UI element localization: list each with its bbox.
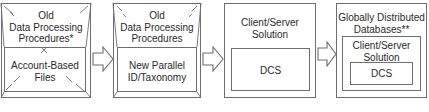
stage-2-new-parallel-taxonomy-box: New Parallel ID/Taxonomy (117, 47, 197, 92)
stage-2-inner-line-1: New Parallel (118, 60, 196, 72)
stage-1-title-line-1: Old (2, 10, 90, 22)
stage-3-title-line-2: Solution (225, 29, 315, 41)
stage-2-title: Old Data Processing Procedures (114, 10, 200, 45)
stage-1-inner-label: Account-Based Files (5, 60, 85, 83)
stage-2-title-line-1: Old (114, 10, 200, 22)
stage-4-inner-line-1: DCS (351, 68, 412, 80)
stage-4-dcs-box: DCS (350, 62, 413, 85)
stage-3-title: Client/Server Solution (225, 17, 315, 40)
stage-3-inner-label: DCS (232, 65, 309, 77)
stage-2-inner-line-2: ID/Taxonomy (118, 72, 196, 84)
stage-4-title: Globally Distributed Databases** (337, 12, 426, 35)
stage-1-title: Old Data Processing Procedures* (2, 10, 90, 45)
stage-2-title-line-2: Data Processing (114, 22, 200, 34)
stage-4-middle-label: Client/Server Solution (343, 40, 420, 63)
stage-1-inner-line-2: Files (5, 72, 85, 84)
stage-1-inner-line-1: Account-Based (5, 60, 85, 72)
right-block-arrow-icon (317, 41, 337, 67)
stage-1-title-line-2: Data Processing (2, 22, 90, 34)
stage-2-inner-label: New Parallel ID/Taxonomy (118, 60, 196, 83)
stage-2-title-line-3: Procedures (114, 33, 200, 45)
stage-3-inner-line-1: DCS (232, 65, 309, 77)
stage-4-middle-line-1: Client/Server (343, 40, 420, 52)
stage-3-dcs-box: DCS (231, 48, 310, 91)
right-block-arrow-icon (92, 46, 114, 72)
stage-1-account-based-files-box: Account-Based Files (4, 47, 86, 92)
stage-4-title-line-1: Globally Distributed (337, 12, 426, 24)
stage-4-inner-label: DCS (351, 68, 412, 80)
right-block-arrow-icon (202, 46, 224, 72)
stage-3-title-line-1: Client/Server (225, 17, 315, 29)
stage-4-title-line-2: Databases** (337, 24, 426, 36)
stage-1-title-line-3: Procedures* (2, 33, 90, 45)
